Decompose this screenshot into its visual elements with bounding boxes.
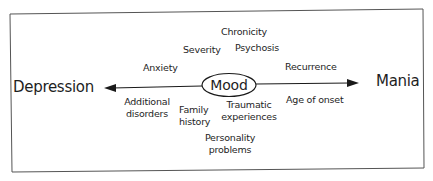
traumatic-experiences-line-2: experiences	[221, 111, 276, 123]
additional-disorders-line-1: Additional	[124, 96, 170, 108]
recurrence-label: Recurrence	[285, 61, 337, 73]
additional-disorders-line-2: disorders	[124, 108, 170, 120]
psychosis-label: Psychosis	[235, 42, 279, 54]
arrow-line-left	[112, 86, 202, 88]
anxiety-label: Anxiety	[143, 62, 178, 74]
traumatic-experiences-label: Traumatic experiences	[221, 99, 276, 122]
additional-disorders-label: Additional disorders	[124, 96, 170, 119]
arrowhead-right-icon	[347, 79, 359, 87]
age-of-onset-label: Age of onset	[286, 94, 344, 106]
mood-label: Mood	[210, 77, 247, 93]
arrowhead-left-icon	[104, 84, 116, 92]
severity-label: Severity	[183, 44, 221, 56]
personality-problems-line-2: problems	[205, 144, 255, 156]
family-history-line-2: history	[179, 116, 210, 128]
mania-label: Mania	[376, 73, 420, 90]
chronicity-label: Chronicity	[221, 26, 267, 38]
family-history-label: Family history	[179, 104, 210, 127]
arrow-line-right	[256, 83, 350, 84]
depression-label: Depression	[13, 79, 94, 96]
family-history-line-1: Family	[179, 104, 210, 116]
personality-problems-line-1: Personality	[205, 132, 255, 144]
traumatic-experiences-line-1: Traumatic	[221, 99, 276, 111]
personality-problems-label: Personality problems	[205, 132, 255, 155]
